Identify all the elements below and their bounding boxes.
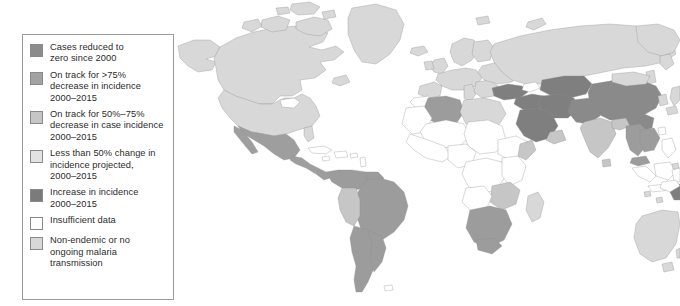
region-iceland: [410, 46, 428, 56]
region-taiwan: [658, 127, 666, 135]
legend-label-on-track-75-decrease: On track for >75% decrease in incidence …: [50, 70, 141, 104]
region-china: [588, 80, 662, 120]
region-malaysia: [630, 156, 650, 166]
legend-item-increase-in-incidence: Increase in incidence 2000–2015: [30, 187, 167, 210]
legend-swatch-less-than-50-change: [30, 150, 43, 163]
legend-swatch-non-endemic: [30, 237, 43, 250]
region-central-asia: [540, 76, 592, 98]
malaria-incidence-world-map-figure: Cases reduced to zero since 2000 On trac…: [0, 0, 680, 306]
region-korea: [658, 94, 668, 106]
world-map: [176, 0, 680, 306]
region-japan: [670, 86, 680, 106]
legend-swatch-on-track-50-75-decrease: [30, 111, 43, 124]
legend-item-non-endemic: Non-endemic or no ongoing malaria transm…: [30, 235, 167, 269]
region-novaya-zemlya: [526, 18, 546, 30]
region-philippines: [662, 138, 676, 158]
region-falklands: [384, 285, 393, 291]
region-pacific-islet-a: [672, 163, 679, 169]
region-alaska: [178, 40, 220, 72]
legend-swatch-cases-reduced-to-zero: [30, 44, 43, 57]
region-sumatra: [632, 166, 656, 182]
legend-item-insufficient-data: Insufficient data: [30, 215, 167, 230]
region-iberia: [418, 82, 442, 98]
region-tanzania-zambia: [490, 182, 520, 210]
region-hispaniola: [334, 151, 348, 158]
region-arctic-islet-a: [276, 7, 290, 15]
legend-swatch-on-track-75-decrease: [30, 72, 43, 85]
region-sri-lanka: [602, 159, 611, 167]
legend-label-insufficient-data: Insufficient data: [50, 215, 116, 226]
region-new-zealand-north: [676, 248, 680, 258]
region-pacific-islet-c: [644, 191, 651, 197]
legend-item-on-track-50-75-decrease: On track for 50%–75% decrease in case in…: [30, 109, 167, 143]
region-indochina: [640, 128, 660, 152]
legend-label-non-endemic: Non-endemic or no ongoing malaria transm…: [50, 235, 130, 269]
region-canada: [214, 26, 344, 104]
legend-item-on-track-75-decrease: On track for >75% decrease in incidence …: [30, 70, 167, 104]
region-east-africa: [502, 156, 526, 186]
region-newfoundland: [332, 75, 350, 86]
region-jamaica: [322, 156, 330, 161]
legend-label-less-than-50-change: Less than 50% change in incidence projec…: [50, 148, 156, 182]
region-arctic-islet-b: [322, 10, 336, 19]
region-ireland: [424, 61, 434, 70]
region-peru-bolivia: [338, 188, 360, 226]
legend-item-cases-reduced-to-zero: Cases reduced to zero since 2000: [30, 42, 167, 65]
region-puerto-rico: [350, 153, 358, 158]
region-japan-south: [666, 106, 678, 115]
region-pacific-islet-b: [656, 197, 663, 203]
legend-label-on-track-50-75-decrease: On track for 50%–75% decrease in case in…: [50, 109, 163, 143]
region-tasmania: [662, 262, 674, 272]
region-ellesmere-island: [290, 2, 320, 15]
region-india: [580, 118, 616, 158]
region-lesser-antilles: [360, 157, 366, 167]
region-svalbard: [476, 16, 490, 25]
map-legend: Cases reduced to zero since 2000 On trac…: [22, 34, 174, 300]
region-greenland: [348, 4, 404, 64]
region-cuba: [308, 146, 332, 154]
legend-label-increase-in-incidence: Increase in incidence 2000–2015: [50, 187, 138, 210]
legend-swatch-increase-in-incidence: [30, 189, 43, 202]
region-australia: [634, 210, 680, 262]
world-map-svg: [176, 0, 680, 306]
region-madagascar: [526, 192, 544, 222]
legend-swatch-insufficient-data: [30, 217, 43, 230]
legend-item-less-than-50-change: Less than 50% change in incidence projec…: [30, 148, 167, 182]
region-florida: [304, 126, 314, 142]
region-banks-island: [242, 19, 262, 32]
legend-label-cases-reduced-to-zero: Cases reduced to zero since 2000: [50, 42, 124, 65]
